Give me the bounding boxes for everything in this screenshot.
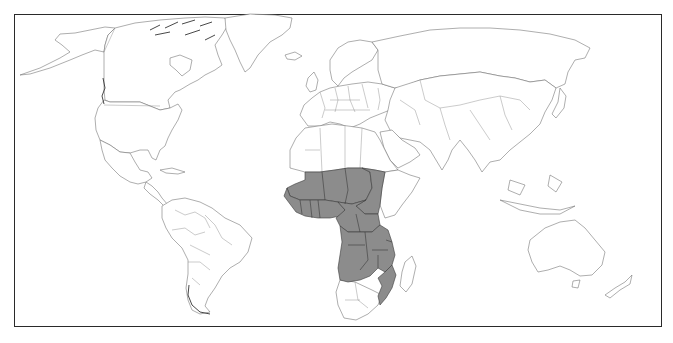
north-america bbox=[20, 14, 292, 206]
horn-of-africa bbox=[380, 170, 420, 218]
mozambique-malawi bbox=[378, 265, 396, 305]
greenland bbox=[225, 14, 292, 72]
south-america-outline bbox=[162, 198, 252, 314]
scandinavia bbox=[330, 40, 378, 86]
iceland bbox=[285, 52, 302, 60]
canada bbox=[104, 17, 228, 110]
north-africa bbox=[290, 124, 398, 172]
oceania bbox=[528, 220, 632, 298]
cuba bbox=[160, 168, 185, 174]
world-map bbox=[0, 0, 673, 343]
australia bbox=[528, 220, 605, 276]
southeast-asia-islands bbox=[500, 175, 575, 214]
south-america bbox=[162, 198, 252, 314]
new-zealand bbox=[605, 275, 632, 298]
british-isles bbox=[306, 72, 318, 92]
alaska bbox=[20, 27, 115, 75]
madagascar bbox=[400, 256, 416, 292]
central-america bbox=[144, 182, 168, 206]
west-sahel-mali-niger-chad bbox=[287, 168, 372, 204]
tasmania bbox=[572, 280, 580, 288]
